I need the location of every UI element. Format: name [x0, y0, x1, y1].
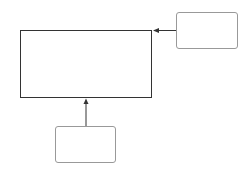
arrowhead-left-icon [153, 28, 159, 33]
diagram-canvas [0, 0, 251, 177]
edge-bottom-to-main [84, 99, 89, 127]
main-node[interactable] [20, 30, 152, 98]
arrowhead-up-icon [84, 99, 89, 105]
bottom-node[interactable] [55, 126, 116, 163]
edge-right-to-main [153, 28, 176, 33]
right-node[interactable] [176, 12, 238, 49]
